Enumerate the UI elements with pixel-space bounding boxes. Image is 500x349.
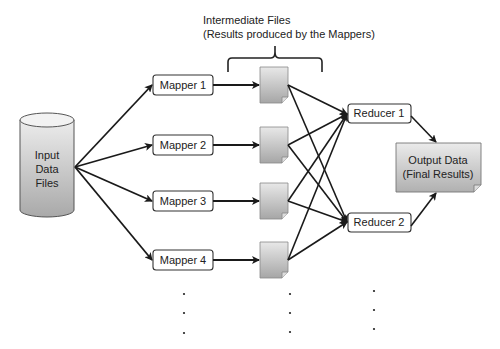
svg-text:(Final Results): (Final Results) bbox=[403, 168, 474, 180]
mapper-arrows bbox=[213, 85, 259, 260]
svg-text:Files: Files bbox=[35, 177, 59, 189]
mapper-4: Mapper 4 bbox=[153, 250, 213, 270]
mapper-1: Mapper 1 bbox=[153, 75, 213, 95]
continuation-dots bbox=[183, 290, 375, 334]
reducer-2: Reducer 2 bbox=[348, 213, 411, 232]
svg-text:Mapper 4: Mapper 4 bbox=[160, 254, 206, 266]
shuffle-arrows bbox=[288, 85, 347, 260]
svg-text:Output Data: Output Data bbox=[408, 154, 468, 166]
intermediate-file-icon-1 bbox=[260, 67, 288, 103]
intermediate-file-icon-2 bbox=[260, 127, 288, 163]
input-arrows bbox=[75, 85, 152, 260]
intermediate-files-title: Intermediate Files (Results produced by … bbox=[203, 14, 375, 40]
reducer-1: Reducer 1 bbox=[348, 104, 411, 123]
mapper-3: Mapper 3 bbox=[153, 191, 213, 211]
mapreduce-diagram: Intermediate Files (Results produced by … bbox=[0, 0, 500, 349]
input-data-cylinder: Input Data Files bbox=[20, 113, 74, 217]
svg-text:Mapper 1: Mapper 1 bbox=[160, 79, 206, 91]
svg-text:Input: Input bbox=[35, 149, 59, 161]
svg-text:Data: Data bbox=[35, 163, 59, 175]
svg-text:Mapper 3: Mapper 3 bbox=[160, 195, 206, 207]
output-data-file: Output Data (Final Results) bbox=[396, 143, 481, 192]
svg-text:Intermediate Files: Intermediate Files bbox=[203, 14, 291, 26]
svg-text:Reducer 2: Reducer 2 bbox=[354, 216, 405, 228]
svg-text:(Results produced by the Mappe: (Results produced by the Mappers) bbox=[203, 28, 375, 40]
svg-text:Reducer 1: Reducer 1 bbox=[354, 107, 405, 119]
intermediate-file-icon-3 bbox=[260, 183, 288, 219]
intermediate-file-icon-4 bbox=[260, 242, 288, 278]
svg-text:Mapper 2: Mapper 2 bbox=[160, 139, 206, 151]
mapper-2: Mapper 2 bbox=[153, 135, 213, 155]
